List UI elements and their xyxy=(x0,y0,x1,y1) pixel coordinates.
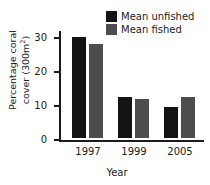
bar-1997-mean-fished xyxy=(88,43,104,139)
y-axis-label: Percentage coral cover (300m2) xyxy=(6,20,32,120)
bar-group-2005 xyxy=(163,96,196,139)
bar-chart-figure: Percentage coral cover (300m2) 0 10 20 3… xyxy=(0,0,210,185)
bar-1999-mean-unfished xyxy=(117,96,133,139)
legend-swatch-fished-icon xyxy=(106,24,117,35)
y-tick-0: 0 xyxy=(54,139,59,141)
plot-area: 0 10 20 30 1997 1999 2005 xyxy=(59,31,204,141)
y-axis-label-line1: Percentage coral xyxy=(7,30,18,110)
x-tick-label-1999: 1999 xyxy=(121,146,146,157)
bar-group-1997 xyxy=(71,36,104,139)
x-axis-label: Year xyxy=(0,167,210,178)
y-tick-20: 20 xyxy=(54,71,59,73)
legend-label-mean-unfished: Mean unfished xyxy=(121,11,194,22)
bar-1997-mean-unfished xyxy=(71,36,87,139)
legend-item-mean-unfished: Mean unfished xyxy=(106,11,194,22)
x-axis-line xyxy=(59,140,204,142)
x-tick-label-1997: 1997 xyxy=(75,146,100,157)
legend-item-mean-fished: Mean fished xyxy=(106,24,194,35)
bar-group-1999 xyxy=(117,96,150,139)
bar-2005-mean-fished xyxy=(180,96,196,139)
y-axis-line xyxy=(59,31,61,142)
y-tick-label-30: 30 xyxy=(34,32,47,43)
y-tick-label-0: 0 xyxy=(41,134,47,145)
y-tick-label-20: 20 xyxy=(34,66,47,77)
y-tick-label-10: 10 xyxy=(34,100,47,111)
bar-2005-mean-unfished xyxy=(163,106,179,139)
y-tick-30: 30 xyxy=(54,37,59,39)
y-axis-label-superscript: 2 xyxy=(19,40,27,44)
y-tick-10: 10 xyxy=(54,105,59,107)
y-axis-label-line2: cover (300m2) xyxy=(18,36,31,104)
legend-label-mean-fished: Mean fished xyxy=(121,24,182,35)
x-axis-label-text: Year xyxy=(106,167,127,178)
bar-1999-mean-fished xyxy=(134,98,150,139)
x-tick-label-2005: 2005 xyxy=(167,146,192,157)
legend-swatch-unfished-icon xyxy=(106,11,117,22)
legend: Mean unfished Mean fished xyxy=(106,11,194,35)
